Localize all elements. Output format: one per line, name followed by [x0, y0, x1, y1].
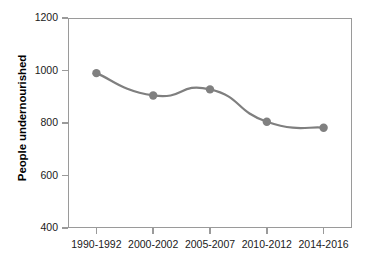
- x-tick-mark: [152, 228, 154, 234]
- y-tick-label: 600: [14, 170, 58, 180]
- y-tick-mark: [62, 227, 68, 229]
- x-tick-mark: [266, 228, 268, 234]
- y-tick-mark: [62, 17, 68, 19]
- y-tick-mark: [62, 175, 68, 177]
- y-tick-label: 400: [14, 222, 58, 232]
- x-tick-mark: [323, 228, 325, 234]
- y-tick-label: 1200: [14, 12, 58, 22]
- x-tick-mark: [96, 228, 98, 234]
- x-tick-label: 2014-2016: [286, 238, 362, 250]
- line-chart: People undernourished 40060080010001200 …: [0, 0, 369, 261]
- plot-area: [68, 18, 352, 228]
- y-tick-label: 1000: [14, 65, 58, 75]
- y-tick-mark: [62, 70, 68, 72]
- y-tick-label: 800: [14, 117, 58, 127]
- x-tick-mark: [209, 228, 211, 234]
- y-tick-mark: [62, 122, 68, 124]
